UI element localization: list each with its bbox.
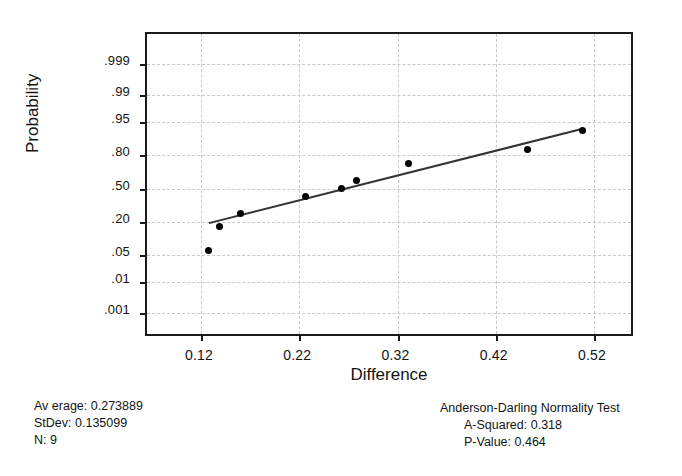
summary-statistics: Av erage: 0.273889 StDev: 0.135099 N: 9 (34, 398, 143, 449)
average-row: Av erage: 0.273889 (34, 398, 143, 415)
y-axis-tick-label: .80 (0, 144, 130, 159)
x-axis-tick-label: 0.42 (454, 347, 534, 363)
y-axis-tick-label: .20 (0, 211, 130, 226)
n-value: 9 (50, 433, 57, 447)
a-squared-row: A-Squared: 0.318 (440, 417, 620, 434)
y-axis-tick-label: .01 (0, 271, 130, 286)
y-axis-tick-label: .99 (0, 84, 130, 99)
data-point (216, 223, 223, 230)
fit-line (147, 34, 635, 338)
y-axis-tick (140, 282, 147, 284)
y-axis-tick (140, 95, 147, 97)
x-axis-tick-label: 0.52 (552, 347, 632, 363)
average-value: 0.273889 (91, 399, 143, 413)
a-squared-value: 0.318 (531, 418, 562, 432)
stdev-row: StDev: 0.135099 (34, 415, 143, 432)
n-label: N: (34, 433, 47, 447)
plot-area (145, 32, 633, 336)
n-row: N: 9 (34, 432, 143, 449)
stdev-label: StDev: (34, 416, 72, 430)
p-value-row: P-Value: 0.464 (440, 434, 620, 451)
data-point (205, 247, 212, 254)
anderson-darling-test: Anderson-Darling Normality Test A-Square… (440, 400, 620, 451)
p-value-label: P-Value: (464, 435, 511, 449)
a-squared-label: A-Squared: (464, 418, 527, 432)
data-point (338, 185, 345, 192)
y-axis-tick (140, 222, 147, 224)
y-axis-tick (140, 122, 147, 124)
x-axis-tick-label: 0.12 (159, 347, 239, 363)
y-axis-tick (140, 255, 147, 257)
average-label: Av erage: (34, 399, 87, 413)
y-axis-tick (140, 313, 147, 315)
y-axis-tick-label: .50 (0, 178, 130, 193)
stdev-value: 0.135099 (75, 416, 127, 430)
x-axis-title: Difference (145, 365, 633, 385)
y-axis-tick (140, 155, 147, 157)
y-axis-tick-label: .999 (0, 53, 130, 68)
p-value-value: 0.464 (515, 435, 546, 449)
x-axis-tick-label: 0.32 (356, 347, 436, 363)
normal-probability-plot: Probability Difference .001.01.05.20.50.… (0, 0, 682, 476)
data-point (302, 193, 309, 200)
y-axis-tick-label: .95 (0, 111, 130, 126)
x-axis-tick-label: 0.22 (257, 347, 337, 363)
y-axis-tick-label: .05 (0, 244, 130, 259)
y-axis-tick-label: .001 (0, 302, 130, 317)
y-axis-tick (140, 64, 147, 66)
test-title: Anderson-Darling Normality Test (440, 400, 620, 417)
y-axis-tick (140, 189, 147, 191)
